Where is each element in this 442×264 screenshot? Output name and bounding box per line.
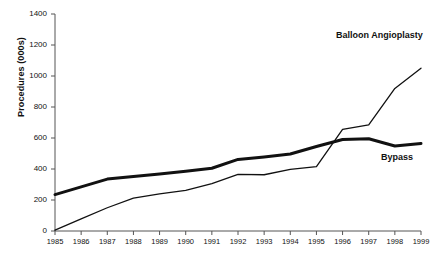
- series-line-bypass: [55, 139, 421, 195]
- data-series-group: [55, 68, 421, 230]
- x-tick-label: 1999: [406, 238, 436, 246]
- y-tick-label: 1200: [17, 41, 47, 49]
- y-tick-label: 1400: [17, 10, 47, 18]
- series-label-bypass: Bypass: [381, 152, 413, 162]
- series-label-balloon-angioplasty: Balloon Angioplasty: [336, 30, 423, 40]
- series-line-balloon-angioplasty: [55, 68, 421, 230]
- y-tick-label: 400: [17, 165, 47, 173]
- y-tick-label: 600: [17, 134, 47, 142]
- x-axis-ticks: [55, 231, 421, 235]
- y-axis-ticks: [51, 14, 55, 231]
- line-chart-figure: Procedures (000s) 0200400600800100012001…: [0, 0, 442, 264]
- y-tick-label: 200: [17, 196, 47, 204]
- y-tick-label: 800: [17, 103, 47, 111]
- axes: [55, 14, 421, 231]
- y-tick-label: 0: [17, 227, 47, 235]
- y-tick-label: 1000: [17, 72, 47, 80]
